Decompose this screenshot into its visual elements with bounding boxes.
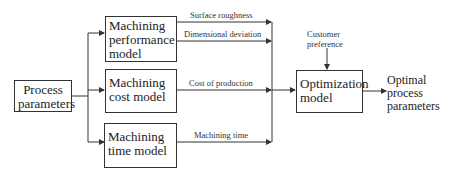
box-label-line: model <box>109 47 173 61</box>
surface-roughness-label: Surface roughness <box>190 10 253 20</box>
cost-of-production-label: Cost of production <box>189 78 253 88</box>
box-label-line: Process <box>18 83 68 97</box>
machining-performance-model-box: Machining performance model <box>105 16 177 62</box>
box-label-line: Machining <box>109 19 173 33</box>
box-label-line: model <box>300 91 359 105</box>
dimensional-deviation-label: Dimensional deviation <box>184 29 261 39</box>
box-label-line: performance <box>109 33 173 47</box>
label-line: parameters <box>387 100 440 113</box>
box-label-line: time model <box>108 144 173 158</box>
optimization-model-box: Optimization model <box>296 70 363 113</box>
label-line: preference <box>307 39 343 49</box>
box-label-line: Machining <box>108 130 173 144</box>
box-label-line: Machining <box>109 76 173 90</box>
customer-preference-label: Customer preference <box>307 29 343 49</box>
machining-time-label: Machining time <box>194 130 248 140</box>
process-parameters-box: Process parameters <box>14 80 72 112</box>
label-line: Customer <box>307 29 343 39</box>
optimal-process-parameters-label: Optimal process parameters <box>387 74 440 113</box>
machining-cost-model-box: Machining cost model <box>105 69 177 113</box>
machining-time-model-box: Machining time model <box>104 123 177 168</box>
box-label-line: Optimization <box>300 77 359 91</box>
box-label-line: cost model <box>109 90 173 104</box>
box-label-line: parameters <box>18 97 68 111</box>
